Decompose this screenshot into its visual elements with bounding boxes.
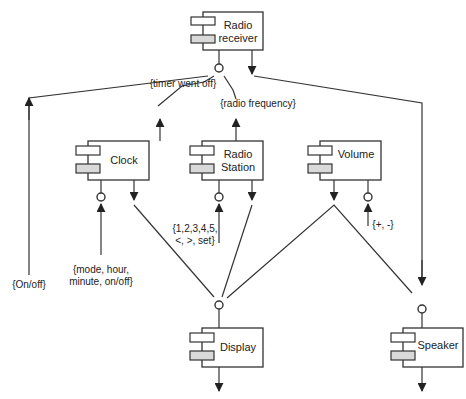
clock-input-interface bbox=[97, 193, 105, 201]
speaker-input-interface bbox=[418, 305, 426, 313]
display-input-interface bbox=[215, 301, 223, 309]
component-clock: Clock bbox=[76, 119, 160, 180]
radio-frequency-line bbox=[224, 76, 236, 99]
component-radio-receiver: Radio receiver bbox=[191, 12, 263, 50]
station-inputs-note-1: {1,2,3,4,5, bbox=[172, 223, 217, 234]
clock-label: Clock bbox=[110, 154, 138, 166]
component-volume: Volume bbox=[308, 141, 381, 180]
radio-receiver-label-1: Radio bbox=[224, 19, 253, 31]
radio-station-label-2: Station bbox=[221, 161, 255, 173]
station-to-display-line bbox=[222, 205, 252, 297]
volume-input-interface bbox=[364, 193, 372, 201]
display-label: Display bbox=[220, 341, 257, 353]
radio-frequency-note: {radio frequency} bbox=[220, 98, 296, 109]
clock-inputs-note-1: {mode, hour, bbox=[73, 264, 129, 275]
volume-inputs-note: {+, -} bbox=[372, 219, 394, 230]
volume-label: Volume bbox=[338, 148, 375, 160]
speaker-label: Speaker bbox=[418, 339, 459, 351]
radio-receiver-provided-interface bbox=[215, 64, 223, 72]
component-display: Display bbox=[190, 328, 263, 367]
component-diagram: Radio receiver {timer went off} {radio f… bbox=[0, 0, 466, 399]
station-inputs-note-2: <, >, set} bbox=[175, 235, 215, 246]
clock-inputs-note-2: minute, on/off} bbox=[69, 276, 133, 287]
timer-went-off-note: {timer went off} bbox=[150, 78, 217, 89]
component-radio-station: Radio Station bbox=[190, 119, 263, 180]
component-speaker: Speaker bbox=[391, 328, 463, 367]
radio-receiver-label-2: receiver bbox=[218, 32, 257, 44]
radio-station-input-interface bbox=[215, 193, 223, 201]
on-off-note: {On/off} bbox=[12, 279, 46, 290]
radio-station-label-1: Radio bbox=[224, 148, 253, 160]
clock-to-display-line bbox=[134, 205, 214, 297]
